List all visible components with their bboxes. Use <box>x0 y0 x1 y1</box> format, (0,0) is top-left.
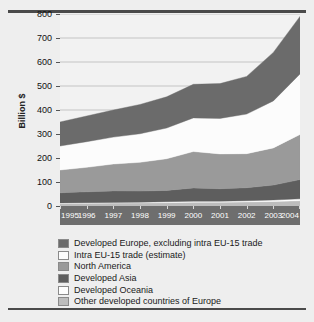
legend-swatch <box>58 297 69 306</box>
x-axis-tick-mark <box>140 206 141 209</box>
x-axis-tick-mark <box>220 206 221 209</box>
x-axis-tick-label: 2004 <box>281 211 299 220</box>
y-axis-tick-label: 500 <box>37 81 52 91</box>
legend-item: North America <box>58 261 288 273</box>
chart-legend: Developed Europe, excluding intra EU-15 … <box>58 238 288 308</box>
legend-swatch <box>58 239 69 248</box>
legend-swatch <box>58 251 69 260</box>
x-axis-tick-label: 1997 <box>104 211 122 220</box>
y-axis-tick-label: 700 <box>37 33 52 43</box>
x-axis-tick-label: 2000 <box>184 211 202 220</box>
legend-item: Developed Oceania <box>58 284 288 296</box>
y-axis-tick-label: 300 <box>37 129 52 139</box>
x-axis-tick-mark <box>193 206 194 209</box>
x-axis-tick-label: 1996 <box>78 211 96 220</box>
legend-label: Developed Asia <box>74 273 137 284</box>
legend-swatch <box>58 262 69 271</box>
y-axis-tick-mark <box>56 206 60 207</box>
y-axis-tick-mark <box>56 182 60 183</box>
y-axis-tick-mark <box>56 86 60 87</box>
y-axis-tick-label: 800 <box>37 9 52 19</box>
y-axis-tick-mark <box>56 38 60 39</box>
x-axis-band: 1995199619971998199920002001200220032004 <box>60 206 300 225</box>
legend-swatch <box>58 286 69 295</box>
y-axis-tick-label: 400 <box>37 105 52 115</box>
x-axis-tick-mark <box>273 206 274 209</box>
x-axis-tick-label: 2002 <box>238 211 256 220</box>
legend-label: Intra EU-15 trade (estimate) <box>74 250 186 261</box>
legend-item: Developed Europe, excluding intra EU-15 … <box>58 238 288 250</box>
x-axis-tick-label: 2003 <box>264 211 282 220</box>
x-axis-tick-mark <box>60 206 61 209</box>
legend-item: Intra EU-15 trade (estimate) <box>58 250 288 262</box>
x-axis-tick-label: 1995 <box>61 211 79 220</box>
legend-label: Developed Oceania <box>74 285 153 296</box>
y-axis-ticks: 0100200300400500600700800 <box>22 14 56 206</box>
legend-label: North America <box>74 261 131 272</box>
area-series-svg <box>60 14 300 206</box>
y-axis-tick-mark <box>56 110 60 111</box>
legend-label: Developed Europe, excluding intra EU-15 … <box>74 238 263 249</box>
top-divider <box>8 10 306 13</box>
y-axis-tick-label: 600 <box>37 57 52 67</box>
x-axis-tick-mark <box>247 206 248 209</box>
legend-swatch <box>58 274 69 283</box>
plot-area <box>60 14 300 206</box>
x-axis-tick-mark <box>87 206 88 209</box>
y-axis-tick-label: 200 <box>37 153 52 163</box>
y-axis-tick-mark <box>56 158 60 159</box>
legend-item: Developed Asia <box>58 273 288 285</box>
stacked-area-chart: Billion $ 0100200300400500600700800 1995… <box>8 14 306 228</box>
legend-item: Other developed countries of Europe <box>58 296 288 308</box>
x-axis-tick-mark <box>299 206 300 209</box>
y-axis-tick-label: 0 <box>47 201 52 211</box>
y-axis-tick-label: 100 <box>37 177 52 187</box>
y-axis-tick-mark <box>56 14 60 15</box>
legend-label: Other developed countries of Europe <box>74 296 221 307</box>
y-axis-tick-mark <box>56 134 60 135</box>
bottom-divider <box>8 308 306 310</box>
x-axis-tick-mark <box>167 206 168 209</box>
chart-page: Billion $ 0100200300400500600700800 1995… <box>0 0 314 322</box>
x-axis-tick-label: 2001 <box>211 211 229 220</box>
x-axis-tick-mark <box>113 206 114 209</box>
x-axis-tick-label: 1998 <box>131 211 149 220</box>
x-axis-tick-label: 1999 <box>158 211 176 220</box>
y-axis-tick-mark <box>56 62 60 63</box>
